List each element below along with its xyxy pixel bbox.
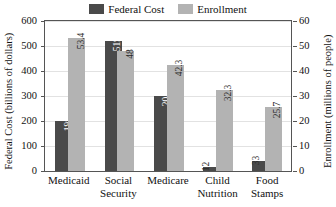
legend-label-enrollment: Enrollment [197,4,247,15]
bar-value-label: 48 [126,49,136,59]
y-axis-left-tick-label: 300 [0,91,37,102]
category-label-line: Stamps [242,187,292,200]
category-label-line: Child [193,174,243,187]
bar-enrollment[interactable]: 42.3 [167,65,184,171]
y-axis-right-tick-label: 20 [299,116,336,127]
category-label-line: Medicare [143,174,193,187]
bar-group: 20442.3 [143,21,192,171]
bar-chart: Federal Cost Enrollment Federal Cost (bi… [0,0,336,207]
legend-entry-federal-cost: Federal Cost [89,4,164,15]
x-axis-category-label: FoodStamps [242,174,292,199]
legend-swatch-federal-cost [89,4,104,14]
bar-value-label: 42.3 [175,60,185,77]
y-axis-right-tick [293,146,297,147]
y-axis-left-tick-label: 200 [0,116,37,127]
bar-value-label: 33 [251,156,261,166]
y-axis-right-tick-label: 50 [299,41,336,52]
chart-legend: Federal Cost Enrollment [0,1,336,17]
y-axis-left-tick-label: 600 [0,16,37,27]
x-axis-category-label: SocialSecurity [94,174,144,199]
bar-enrollment[interactable]: 32.3 [216,90,233,171]
y-axis-right-tick [293,46,297,47]
bar-group: 51948 [94,21,143,171]
bar-group: 3325.7 [242,21,291,171]
category-label-line: Medicaid [44,174,94,187]
bar-enrollment[interactable]: 25.7 [265,107,282,171]
plot-area: 0100200300400500600 0102030405060 19853.… [44,20,292,172]
bar-enrollment[interactable]: 48 [117,51,134,171]
y-axis-left-tick-label: 400 [0,66,37,77]
y-axis-right-tick-label: 40 [299,66,336,77]
y-axis-left-tick-label: 0 [0,166,37,177]
x-axis-category-labels: MedicaidSocialSecurityMedicareChildNutri… [44,174,292,199]
category-label-line: Food [242,174,292,187]
y-axis-right-tick [293,21,297,22]
bar-value-label: 12 [202,162,212,172]
x-axis-category-label: ChildNutrition [193,174,243,199]
category-label-line: Nutrition [193,187,243,200]
x-axis-category-label: Medicare [143,174,193,199]
bar-value-label: 25.7 [273,101,283,118]
y-axis-left-tick [41,171,45,172]
y-axis-right-tick [293,121,297,122]
category-label-line: Social [94,174,144,187]
legend-swatch-enrollment [178,4,193,14]
bar-group: 19853.4 [45,21,94,171]
y-axis-right-tick-label: 30 [299,91,336,102]
x-axis-category-label: Medicaid [44,174,94,199]
category-label-line: Security [94,187,144,200]
legend-entry-enrollment: Enrollment [178,4,247,15]
bar-value-label: 519 [113,36,123,50]
bar-groups: 19853.45194820442.31232.33325.7 [45,21,291,171]
y-axis-right-tick-label: 60 [299,16,336,27]
y-axis-right-tick-label: 0 [299,166,336,177]
legend-label-federal-cost: Federal Cost [108,4,164,15]
bar-value-label: 32.3 [224,85,234,102]
bar-group: 1232.3 [193,21,242,171]
bar-enrollment[interactable]: 53.4 [68,38,85,172]
y-axis-right-tick-label: 10 [299,141,336,152]
y-axis-left-tick-label: 100 [0,141,37,152]
y-axis-left-tick-label: 500 [0,41,37,52]
y-axis-right-tick [293,71,297,72]
y-axis-right-tick [293,96,297,97]
y-axis-right-tick [293,171,297,172]
bar-value-label: 53.4 [77,32,87,49]
